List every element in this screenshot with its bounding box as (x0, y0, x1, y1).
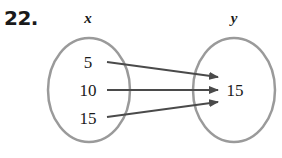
domain-title: x (83, 10, 92, 26)
range-title: y (229, 10, 238, 26)
mapping-arrow (107, 102, 218, 117)
range-value: 15 (227, 81, 244, 100)
domain-value: 15 (80, 109, 97, 128)
mapping-arrow (107, 62, 218, 77)
domain-value: 5 (84, 53, 93, 72)
domain-value: 10 (80, 81, 97, 100)
mapping-diagram: x y 5 10 15 15 (0, 0, 282, 158)
